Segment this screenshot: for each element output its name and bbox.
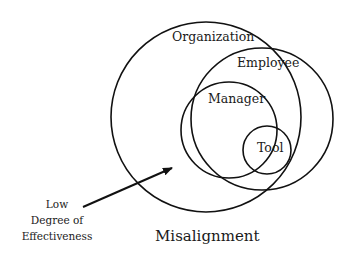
organization-label: Organization <box>172 29 254 44</box>
arrow <box>83 168 172 207</box>
caption: Misalignment <box>155 227 259 245</box>
organization-circle <box>111 22 301 212</box>
arrow-label-line-1: Low <box>46 198 68 210</box>
employee-label: Employee <box>237 55 299 70</box>
manager-label: Manager <box>208 91 265 106</box>
venn-diagram: Organization Employee Manager Tool Low D… <box>0 0 349 259</box>
tool-label: Tool <box>257 140 283 155</box>
arrow-label-line-2: Degree of <box>31 214 84 226</box>
arrow-label-line-3: Effectiveness <box>22 230 93 242</box>
